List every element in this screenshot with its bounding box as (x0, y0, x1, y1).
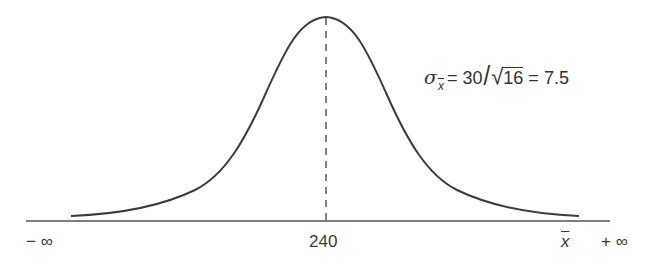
standard-error-formula: σ x = 30 / √ 16 = 7.5 (424, 62, 569, 90)
normal-curve (71, 17, 579, 216)
radicand: 16 (503, 67, 523, 88)
square-root: √ 16 (491, 64, 523, 90)
sigma-symbol: σ (424, 66, 437, 88)
numerator: 30 (463, 68, 483, 89)
negative-infinity-label: − ∞ (26, 233, 53, 250)
equals-sign-2: = (528, 68, 539, 89)
x-bar-label: x (561, 233, 570, 250)
formula-result: 7.5 (544, 68, 569, 89)
slash: / (484, 60, 491, 92)
sigma-subscript: x (438, 79, 444, 93)
equals-sign: = (447, 68, 458, 89)
radical-sign: √ (491, 64, 503, 90)
mean-label: 240 (309, 233, 337, 250)
positive-infinity-label: + ∞ (601, 233, 628, 250)
normal-curve-diagram (0, 0, 652, 263)
